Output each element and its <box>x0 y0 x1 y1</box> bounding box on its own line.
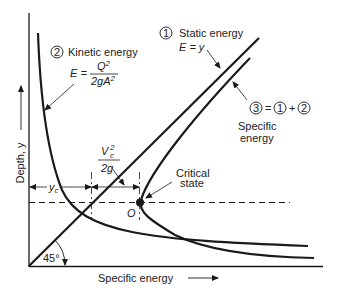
svg-text:c: c <box>110 151 114 160</box>
kinetic-energy-pointer-arrow-icon <box>45 84 74 110</box>
svg-text:1: 1 <box>277 102 283 114</box>
svg-text:E = y: E = y <box>179 41 206 53</box>
angle-label: 45° <box>43 252 60 264</box>
static-energy-line <box>29 38 259 266</box>
y-axis-label: Depth, y <box>14 142 26 183</box>
y-axis-label-group: Depth, y <box>14 86 26 183</box>
svg-text:energy: energy <box>240 132 274 144</box>
x-axis-label-group: Specific energy <box>98 272 218 284</box>
specific-energy-diagram: Depth, y Specific energy 45° O yc V 2 c … <box>0 0 337 299</box>
specific-energy-label: 3 = 1 + 2 Specific energy <box>238 102 310 144</box>
velocity-head-label: V 2 c 2g <box>98 143 120 174</box>
static-energy-label: 1 Static energy E = y <box>160 27 244 53</box>
svg-text:V: V <box>101 145 110 157</box>
svg-text:3: 3 <box>253 102 259 114</box>
critical-state-pointer-arrow-icon <box>146 182 172 198</box>
specific-energy-curve <box>141 58 314 258</box>
yc-label: yc <box>48 181 59 195</box>
svg-text:2: 2 <box>301 102 307 114</box>
critical-state-label-line2: state <box>180 177 204 189</box>
svg-text:+: + <box>289 102 295 114</box>
specific-energy-pointer-arrow-icon <box>233 82 247 100</box>
kinetic-energy-label: 2 Kinetic energy E = Q2 2gA2 <box>51 46 138 87</box>
svg-text:Q2: Q2 <box>97 59 111 72</box>
svg-text:E =: E = <box>70 67 87 79</box>
svg-text:Static energy: Static energy <box>179 27 244 39</box>
svg-text:Kinetic energy: Kinetic energy <box>68 46 138 58</box>
critical-point-marker <box>136 199 144 207</box>
svg-text:=: = <box>265 102 271 114</box>
svg-text:1: 1 <box>163 27 169 39</box>
svg-text:2: 2 <box>54 46 60 58</box>
svg-text:Specific: Specific <box>238 120 277 132</box>
static-energy-pointer-arrow-icon <box>207 50 220 68</box>
svg-text:2gA2: 2gA2 <box>90 74 116 87</box>
x-axis-label: Specific energy <box>98 272 174 284</box>
critical-point-label: O <box>127 207 136 219</box>
